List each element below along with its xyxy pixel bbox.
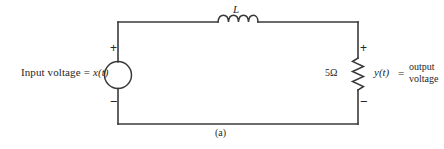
resistor-zigzag [353, 58, 364, 90]
input-signal-expression: x(t) [93, 66, 109, 78]
figure-caption: (a) [215, 128, 226, 139]
output-voltage-label: outputvoltage [409, 61, 438, 85]
source-minus-sign: − [110, 94, 118, 109]
circuit-diagram-figure: Input voltage=x(t) L 5Ω y(t) = outputvol… [0, 0, 444, 149]
output-voltage-line2: voltage [409, 73, 438, 84]
input-equals-sign: = [81, 66, 93, 78]
output-equals-sign: = [398, 67, 404, 79]
load-plus-sign: + [360, 41, 367, 55]
input-voltage-text: Input voltage [21, 66, 81, 78]
output-signal-expression: y(t) [374, 67, 389, 79]
output-voltage-line1: output [409, 61, 435, 72]
resistor-value-label: 5Ω [325, 68, 337, 79]
load-minus-sign: − [360, 94, 368, 109]
input-voltage-label: Input voltage=x(t) [21, 67, 109, 79]
inductor-coil [218, 15, 258, 22]
source-plus-sign: + [110, 41, 117, 55]
inductor-label: L [233, 4, 239, 16]
